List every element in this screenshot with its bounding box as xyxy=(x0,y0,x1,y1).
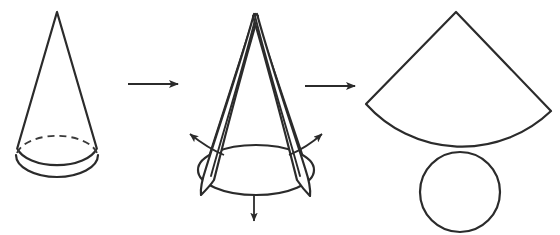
step-1-solid-cone xyxy=(16,12,98,177)
net-base-circle xyxy=(420,152,500,232)
step-3-cone-net xyxy=(366,12,551,232)
cone-unrolling-figure xyxy=(0,0,560,235)
figure-canvas xyxy=(0,0,560,235)
step-2-cone-unrolling xyxy=(190,14,322,221)
net-sector xyxy=(366,12,551,147)
